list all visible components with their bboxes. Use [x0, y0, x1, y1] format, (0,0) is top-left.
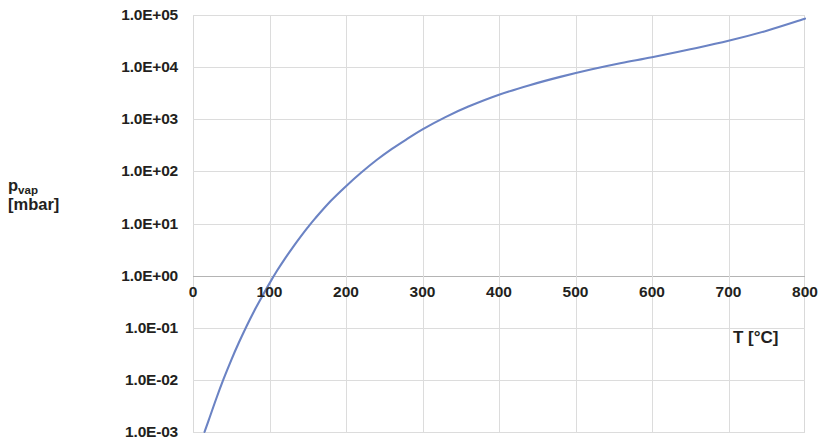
y-axis-tick-label: 1.0E-01 [0, 320, 186, 336]
x-axis-tick-label: 300 [410, 284, 436, 300]
x-axis-tick-label: 600 [639, 284, 665, 300]
x-axis-tick-label: 800 [792, 284, 818, 300]
plot-area [193, 15, 805, 432]
y-axis-tick-label: 1.0E+05 [0, 7, 186, 23]
x-axis-tick-label: 100 [257, 284, 283, 300]
y-axis-tick-labels: 1.0E+051.0E+041.0E+031.0E+021.0E+011.0E+… [0, 0, 186, 432]
x-axis-tick-label: 0 [189, 284, 198, 300]
y-axis-tick-label: 1.0E+01 [0, 216, 186, 232]
vapor-pressure-curve [204, 19, 805, 432]
vapor-pressure-curve-layer [193, 15, 805, 432]
y-axis-tick-label: 1.0E+03 [0, 111, 186, 127]
y-axis-tick-label: 1.0E+00 [0, 268, 186, 284]
x-axis-title: T [°C] [733, 328, 779, 348]
x-axis-tick-label: 200 [333, 284, 359, 300]
x-axis-tick-label: 500 [563, 284, 589, 300]
gridline-horizontal [193, 432, 805, 433]
y-axis-tick-label: 1.0E+02 [0, 163, 186, 179]
y-axis-tick-label: 1.0E-02 [0, 372, 186, 388]
y-axis-tick-label: 1.0E-03 [0, 424, 186, 440]
x-axis-tick-label: 400 [486, 284, 512, 300]
y-axis-tick-label: 1.0E+04 [0, 59, 186, 75]
x-axis-tick-label: 700 [716, 284, 742, 300]
